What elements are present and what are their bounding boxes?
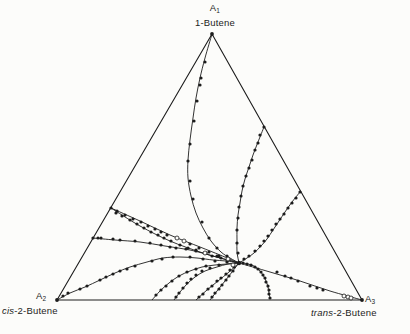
data-point-filled bbox=[177, 274, 180, 277]
data-point-filled bbox=[275, 270, 278, 273]
data-point-filled bbox=[197, 246, 200, 249]
data-point-filled bbox=[142, 226, 145, 229]
data-point-filled bbox=[267, 292, 270, 295]
data-point-filled bbox=[256, 267, 259, 270]
data-point-filled bbox=[98, 278, 101, 281]
data-point-filled bbox=[200, 220, 203, 223]
data-point-filled bbox=[120, 214, 123, 217]
data-point-filled bbox=[201, 292, 204, 295]
data-point-filled bbox=[290, 201, 293, 204]
vertex-species-cis-2-butene: cis-2-Butene bbox=[2, 305, 58, 316]
ternary-diagram-figure: A1 1-Butene A2 cis-2-Butene A3 trans-2-B… bbox=[0, 0, 410, 334]
data-point-filled bbox=[194, 249, 197, 252]
data-point-filled bbox=[91, 236, 94, 239]
data-point-filled bbox=[237, 205, 240, 208]
data-point-filled bbox=[210, 254, 213, 257]
data-point-filled bbox=[259, 270, 262, 273]
vertex-symbol-a3: A3 bbox=[365, 293, 375, 307]
data-point-filled bbox=[188, 142, 191, 145]
data-point-filled bbox=[66, 291, 69, 294]
data-point-filled bbox=[170, 279, 173, 282]
data-point-filled bbox=[294, 196, 297, 199]
data-point-open bbox=[231, 263, 235, 267]
data-point-filled bbox=[215, 246, 218, 249]
vertex-dot bbox=[360, 298, 364, 302]
data-point-filled bbox=[268, 296, 271, 299]
data-point-filled bbox=[262, 239, 265, 242]
data-point-filled bbox=[61, 294, 64, 297]
data-point-filled bbox=[228, 268, 231, 271]
data-point-filled bbox=[236, 251, 239, 254]
equilibrium-point bbox=[237, 261, 241, 265]
data-point-open bbox=[342, 294, 346, 298]
data-point-filled bbox=[236, 216, 239, 219]
data-point-filled bbox=[264, 280, 267, 283]
data-point-filled bbox=[118, 269, 121, 272]
vertex-species-1-butene: 1-Butene bbox=[170, 17, 260, 28]
data-point-filled bbox=[184, 247, 187, 250]
ternary-plot-canvas bbox=[0, 0, 410, 334]
data-point-filled bbox=[164, 284, 167, 287]
data-point-filled bbox=[258, 244, 261, 247]
data-point-filled bbox=[169, 239, 172, 242]
data-point-filled bbox=[253, 249, 256, 252]
data-point-filled bbox=[244, 174, 247, 177]
data-point-filled bbox=[227, 274, 230, 277]
data-point-filled bbox=[128, 218, 131, 221]
data-point-filled bbox=[185, 270, 188, 273]
data-point-filled bbox=[247, 254, 250, 257]
data-point-filled bbox=[239, 194, 242, 197]
data-point-filled bbox=[156, 233, 159, 236]
data-point-filled bbox=[215, 279, 218, 282]
data-point-filled bbox=[250, 158, 253, 161]
data-point-filled bbox=[177, 291, 180, 294]
data-point-filled bbox=[104, 275, 107, 278]
data-point-filled bbox=[162, 236, 165, 239]
data-point-filled bbox=[199, 76, 202, 79]
data-point-filled bbox=[150, 259, 153, 262]
data-point-filled bbox=[96, 236, 99, 239]
data-point-filled bbox=[154, 293, 157, 296]
data-point-filled bbox=[213, 259, 216, 262]
data-point-filled bbox=[282, 212, 285, 215]
data-point-filled bbox=[139, 220, 142, 223]
data-point-filled bbox=[159, 230, 162, 233]
data-point-filled bbox=[241, 184, 244, 187]
data-point-filled bbox=[249, 263, 252, 266]
data-point-open bbox=[182, 239, 186, 243]
data-point-filled bbox=[174, 246, 177, 249]
data-point-filled bbox=[99, 236, 102, 239]
data-point-filled bbox=[261, 273, 264, 276]
data-point-filled bbox=[263, 276, 266, 279]
data-point-filled bbox=[200, 269, 203, 272]
data-point-filled bbox=[204, 264, 207, 267]
data-point-filled bbox=[207, 250, 210, 253]
data-point-filled bbox=[224, 278, 227, 281]
data-point-filled bbox=[192, 119, 195, 122]
data-point-filled bbox=[197, 295, 200, 298]
vertex-label-top: A1 1-Butene bbox=[170, 2, 260, 28]
data-point-filled bbox=[165, 233, 168, 236]
data-point-filled bbox=[181, 286, 184, 289]
data-point-open bbox=[349, 296, 353, 300]
data-point-filled bbox=[296, 279, 299, 282]
vertex-dot bbox=[55, 298, 59, 302]
data-point-filled bbox=[191, 197, 194, 200]
data-point-filled bbox=[262, 125, 265, 128]
data-point-filled bbox=[78, 287, 81, 290]
data-point-open bbox=[226, 257, 230, 261]
data-point-filled bbox=[208, 266, 211, 269]
data-point-filled bbox=[109, 206, 112, 209]
data-point-filled bbox=[194, 267, 197, 270]
data-point-filled bbox=[235, 241, 238, 244]
data-point-filled bbox=[188, 179, 191, 182]
data-point-filled bbox=[123, 213, 126, 216]
data-point-filled bbox=[253, 148, 256, 151]
data-point-filled bbox=[194, 273, 197, 276]
vertex-symbol-a1: A1 bbox=[170, 2, 260, 16]
data-point-filled bbox=[133, 239, 136, 242]
data-point-filled bbox=[256, 141, 259, 144]
data-point-filled bbox=[235, 228, 238, 231]
data-point-filled bbox=[189, 277, 192, 280]
data-point-filled bbox=[247, 166, 250, 169]
